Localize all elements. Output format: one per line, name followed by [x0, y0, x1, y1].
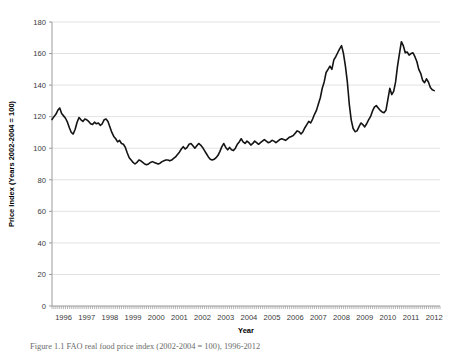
figure-container: 020406080100120140160180 199619971998199…: [0, 0, 455, 352]
y-tick-label: 100: [33, 144, 46, 153]
x-tick-label: 2008: [333, 313, 350, 322]
y-tick-label: 180: [33, 18, 46, 27]
y-tick-label: 140: [33, 81, 46, 90]
x-tick-label: 2006: [287, 313, 304, 322]
y-axis-ticks: 020406080100120140160180: [33, 18, 52, 311]
y-tick-label: 20: [38, 270, 46, 279]
x-tick-label: 1999: [125, 313, 142, 322]
y-tick-label: 80: [38, 176, 46, 185]
x-tick-label: 1996: [55, 313, 72, 322]
x-tick-label: 2001: [171, 313, 188, 322]
y-axis-label: Price Index (Years 2002-2004 = 100): [7, 100, 16, 227]
x-tick-label: 1998: [101, 313, 118, 322]
x-axis-label: Year: [238, 326, 254, 335]
y-tick-label: 40: [38, 239, 46, 248]
x-axis-ticks: 1996199719981999200020012002200320042005…: [55, 313, 443, 322]
x-tick-label: 2003: [217, 313, 234, 322]
x-tick-label: 2005: [264, 313, 281, 322]
x-tick-label: 2000: [148, 313, 165, 322]
x-tick-label: 2002: [194, 313, 211, 322]
x-tick-label: 1997: [78, 313, 95, 322]
x-tick-label: 2011: [403, 313, 419, 322]
y-tick-label: 160: [33, 49, 46, 58]
x-tick-label: 2010: [379, 313, 396, 322]
food-price-index-chart: 020406080100120140160180 199619971998199…: [0, 0, 455, 340]
price-index-line: [52, 42, 434, 165]
x-tick-label: 2007: [310, 313, 327, 322]
x-tick-label: 2009: [356, 313, 373, 322]
x-tick-label: 2004: [240, 313, 257, 322]
gridlines: [52, 22, 440, 274]
y-tick-label: 120: [33, 112, 46, 121]
y-tick-label: 60: [38, 207, 46, 216]
y-tick-label: 0: [42, 302, 46, 311]
figure-caption: Figure 1.1 FAO real food price index (20…: [30, 341, 450, 352]
x-tick-label: 2012: [426, 313, 443, 322]
